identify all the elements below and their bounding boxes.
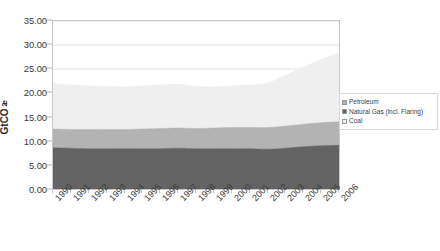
x-tick-mark: [70, 190, 71, 193]
x-tick-label: 2006: [339, 182, 360, 203]
legend-item-label: Natural Gas (incl. Flaring): [349, 108, 423, 116]
x-tick-mark: [124, 190, 125, 193]
area-series-coal: [53, 53, 339, 129]
legend-item[interactable]: Natural Gas (incl. Flaring): [342, 107, 434, 116]
x-tick-mark: [213, 190, 214, 193]
stacked-area-plot: [53, 21, 339, 189]
y-tick-label: 0.00: [29, 184, 47, 195]
y-tick-label: 15.00: [24, 111, 47, 122]
x-tick-mark: [195, 190, 196, 193]
y-axis: GtCO2e 0.005.0010.0015.0020.0025.0030.00…: [0, 14, 52, 196]
legend-swatch-icon: [342, 100, 347, 105]
y-tick-label: 10.00: [24, 135, 47, 146]
chart-container: GtCO2e 0.005.0010.0015.0020.0025.0030.00…: [0, 0, 440, 251]
area-series-petroleum: [53, 145, 339, 189]
x-tick-mark: [284, 190, 285, 193]
x-tick-mark: [267, 190, 268, 193]
legend-swatch-icon: [342, 119, 347, 124]
legend-item[interactable]: Coal: [342, 117, 434, 126]
y-tick-label: 25.00: [24, 63, 47, 74]
x-tick-mark: [249, 190, 250, 193]
plot-area: [52, 20, 340, 190]
legend-swatch-icon: [342, 109, 347, 114]
x-tick-mark: [141, 190, 142, 193]
y-tick-label: 30.00: [24, 39, 47, 50]
x-tick-mark: [177, 190, 178, 193]
y-axis-title-sub: 2: [1, 102, 8, 106]
x-tick-mark: [106, 190, 107, 193]
x-tick-mark: [302, 190, 303, 193]
y-tick-label: 20.00: [24, 87, 47, 98]
x-tick-mark: [159, 190, 160, 193]
legend-item-label: Coal: [349, 117, 362, 125]
x-tick-mark: [231, 190, 232, 193]
y-axis-title-pre: GtCO: [0, 108, 10, 134]
legend-item[interactable]: Petroleum: [342, 98, 434, 107]
x-axis: 1990199119921993199419951996199719981999…: [52, 192, 340, 248]
y-tick-label: 5.00: [29, 159, 47, 170]
x-tick-mark: [338, 190, 339, 193]
x-tick-mark: [88, 190, 89, 193]
x-tick-mark: [320, 190, 321, 193]
legend-item-label: Petroleum: [349, 98, 379, 106]
y-axis-title: GtCO2e: [0, 100, 15, 134]
y-tick-label: 35.00: [24, 15, 47, 26]
x-tick-mark: [52, 190, 53, 193]
chart-legend: PetroleumNatural Gas (incl. Flaring)Coal: [339, 93, 438, 130]
